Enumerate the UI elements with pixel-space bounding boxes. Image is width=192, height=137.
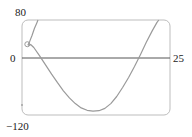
y-tick-label-bottom: −120	[6, 120, 29, 132]
plot-frame	[22, 20, 170, 115]
series-layer	[25, 20, 159, 111]
series-line-curve-main	[28, 20, 159, 111]
x-tick-label-right: 25	[173, 52, 185, 64]
y-tick-label-top: 80	[15, 6, 27, 18]
y-tick-label-zero: 0	[10, 52, 16, 64]
series-line-curve-upper-branch	[28, 20, 38, 45]
curve-loop-mark	[25, 42, 30, 47]
chart: 80 0 −120 25	[0, 0, 192, 137]
